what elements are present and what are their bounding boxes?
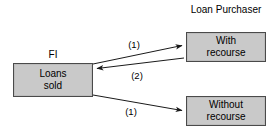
fi-caption-text: FI [49,49,58,60]
node-without-recourse-line1: Without [209,99,243,111]
edge-label-fi-to-with-recourse: (1) [119,39,149,50]
node-loans-sold-line2: sold [44,80,62,92]
fi-caption: FI [13,49,93,61]
node-loans-sold: Loans sold [13,63,93,97]
node-with-recourse-line2: recourse [207,47,246,59]
node-without-recourse: Without recourse [186,96,266,126]
node-without-recourse-line2: recourse [207,111,246,123]
node-with-recourse: With recourse [186,32,266,62]
loan-purchaser-caption: Loan Purchaser [186,4,266,16]
edge-label-with-recourse-to-fi: (2) [122,70,152,81]
loan-sales-diagram: FI Loan Purchaser Loans sold With recour… [0,0,276,134]
edge-with-recourse-to-fi [97,58,184,69]
loan-purchaser-caption-line1: Loan [191,4,213,15]
node-with-recourse-line1: With [216,35,236,47]
node-loans-sold-line1: Loans [39,68,66,80]
edge-label-fi-to-without-recourse: (1) [116,106,146,117]
loan-purchaser-caption-line2: Purchaser [216,4,262,15]
